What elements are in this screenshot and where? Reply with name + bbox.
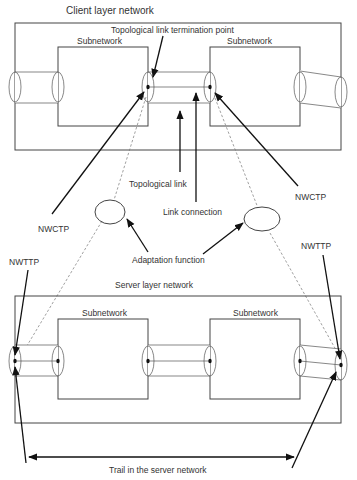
client-layer-title: Client layer network [66, 5, 155, 16]
server-cylinder-middle [142, 345, 216, 376]
nwttp-right-arrow-lower [292, 372, 336, 468]
client-cylinder-left [9, 72, 64, 103]
nwctp-right-label: NWCTP [295, 192, 326, 202]
server-subnetwork-right [210, 319, 300, 399]
nwttp-left-label: NWTTP [9, 257, 40, 267]
server-subnetwork-right-label: Subnetwork [233, 308, 279, 318]
nwttp-right-arrow-upper [323, 255, 340, 359]
client-subnetwork-left [58, 47, 148, 126]
topological-link-label: Topological link [129, 179, 187, 189]
client-subnetwork-right-label: Subnetwork [227, 36, 273, 46]
client-subnetwork-right [210, 47, 300, 126]
server-cylinder-left [9, 345, 64, 376]
client-subnetwork-left-label: Subnetwork [77, 36, 123, 46]
adaptation-function-left [95, 200, 125, 224]
trail-label: Trail in the server network [109, 465, 207, 475]
nwctp-left-arrow [52, 92, 144, 214]
tltp-label: Topological link termination point [111, 25, 234, 35]
server-layer-title: Server layer network [115, 280, 194, 290]
adaptation-function-right [244, 207, 280, 231]
server-subnetwork-left-label: Subnetwork [82, 308, 128, 318]
server-subnetwork-left [58, 319, 148, 399]
nwttp-left-arrow-lower [15, 367, 26, 463]
adaptation-function-label: Adaptation function [132, 255, 205, 265]
adaptation-dash-left-lower [22, 221, 102, 354]
adaptation-arrow-left [127, 219, 148, 252]
tltp-arrow [153, 36, 163, 77]
adaptation-dash-right-upper [215, 98, 258, 208]
nwttp-left-arrow-upper [15, 270, 28, 355]
client-cylinder-right [294, 70, 347, 108]
nwttp-right-label: NWTTP [301, 241, 332, 251]
nwctp-left-label: NWCTP [38, 224, 69, 234]
adaptation-arrow-right [203, 223, 243, 254]
link-connection-label: Link connection [163, 207, 222, 217]
nwctp-right-arrow [215, 93, 298, 186]
network-layer-diagram: Client layer network Subnetwork Subnetwo… [0, 0, 357, 480]
